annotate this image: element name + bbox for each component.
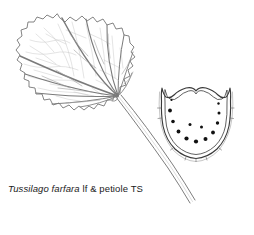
vascular-bundle	[216, 121, 219, 124]
petiole-transverse-section-group	[158, 88, 235, 162]
figure-caption: Tussilago farfara lf & petiole TS	[8, 183, 143, 195]
vascular-bundle	[217, 102, 219, 104]
vascular-bundle	[170, 99, 172, 101]
botanical-figure	[0, 0, 254, 235]
leaf-blade-group	[16, 14, 135, 110]
vascular-bundle	[204, 137, 208, 141]
vascular-bundle	[168, 109, 172, 113]
vascular-bundle	[211, 131, 215, 135]
vascular-bundle	[171, 120, 175, 124]
vascular-bundle	[177, 130, 181, 134]
vascular-bundle	[200, 126, 203, 129]
illustration-plate: Tussilago farfara lf & petiole TS	[0, 0, 254, 235]
vascular-bundle	[194, 139, 198, 143]
caption-scientific-name: Tussilago farfara	[8, 183, 80, 194]
vascular-bundle	[218, 112, 221, 115]
caption-descriptor: lf & petiole TS	[80, 183, 143, 194]
vascular-bundle	[184, 136, 188, 140]
section-outer-outline	[161, 88, 230, 159]
vascular-bundle	[189, 123, 192, 126]
